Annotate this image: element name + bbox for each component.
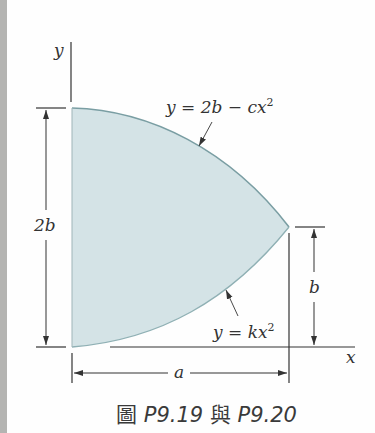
dim-a-label: a xyxy=(174,362,184,382)
caption-label-1: P9.19 xyxy=(144,403,203,427)
x-axis-label: x xyxy=(346,347,356,367)
figure-caption: 圖 P9.19 與 P9.20 xyxy=(0,398,375,428)
upper-eq-leader xyxy=(199,122,212,146)
figure-canvas: y x y = 2b − cx2 y = kx2 2b b a 圖 P9.19 … xyxy=(0,0,375,433)
dim-2b-label: 2b xyxy=(33,215,56,235)
dim-b-label: b xyxy=(309,277,320,297)
lower-eq-leader xyxy=(226,290,238,316)
caption-label-2: P9.20 xyxy=(238,403,297,427)
y-axis-label: y xyxy=(53,40,64,60)
caption-prefix: 圖 xyxy=(116,403,137,427)
lower-curve-equation: y = kx2 xyxy=(212,321,275,342)
caption-conjunction: 與 xyxy=(210,403,231,427)
upper-curve-equation: y = 2b − cx2 xyxy=(165,96,274,117)
shaded-region xyxy=(72,108,289,347)
diagram-svg: y x y = 2b − cx2 y = kx2 2b b a xyxy=(0,0,375,433)
